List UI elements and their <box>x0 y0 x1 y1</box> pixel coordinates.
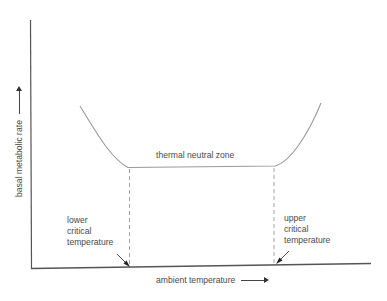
lower-critical-line-3: temperature <box>67 237 113 248</box>
right-arrow-icon <box>241 280 267 281</box>
x-axis-label: ambient temperature <box>156 275 267 285</box>
upper-critical-temperature-label: upper critical temperature <box>284 213 330 246</box>
up-arrow-icon <box>19 88 20 114</box>
y-axis-line <box>31 20 32 269</box>
y-axis-label-text: basal metabolic rate <box>14 120 24 197</box>
upper-critical-line-3: temperature <box>284 235 330 246</box>
x-axis-label-text: ambient temperature <box>156 275 235 285</box>
y-axis-label: basal metabolic rate <box>14 88 24 197</box>
thermal-neutral-zone-label: thermal neutral zone <box>156 150 234 161</box>
upper-critical-line-1: upper <box>284 213 330 224</box>
x-axis-line <box>31 264 371 269</box>
lower-critical-temperature-label: lower critical temperature <box>67 215 113 248</box>
lower-critical-line-2: critical <box>67 226 113 237</box>
lower-critical-line-1: lower <box>67 215 113 226</box>
upper-critical-line-2: critical <box>284 224 330 235</box>
